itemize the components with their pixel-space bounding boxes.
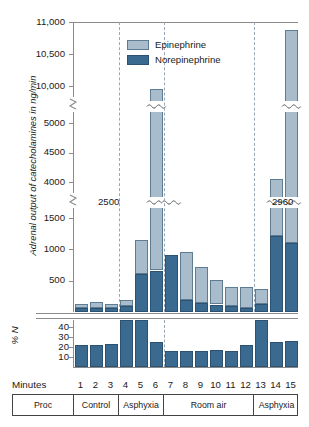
y-axis-tick-label: 5000	[3, 117, 65, 128]
percent-axis-tick-label: 20	[43, 341, 69, 352]
bar-epinephrine-minute-10	[210, 280, 224, 305]
bar-norepinephrine-minute-14	[270, 236, 284, 312]
bar-norepinephrine-minute-4	[120, 306, 134, 312]
percent-axis-tick	[69, 347, 73, 348]
percent-axis-tick	[69, 357, 73, 358]
bar-norepinephrine-minute-5	[135, 274, 149, 312]
y-axis-tick	[69, 54, 73, 55]
bar-epinephrine-minute-8	[180, 252, 194, 301]
bar-norepinephrine-minute-8	[180, 300, 194, 312]
minute-label-6: 6	[148, 379, 164, 390]
y-axis-tick-label: 11,000	[3, 16, 65, 27]
bar-epinephrine-minute-12	[240, 287, 254, 308]
y-axis-tick	[69, 123, 73, 124]
panel-separator-upper	[36, 313, 298, 314]
procedure-cell-proc-0: Proc	[13, 395, 74, 415]
bar-norepinephrine-minute-3	[105, 308, 119, 312]
procedure-table: ProcControlAsphyxiaRoom airAsphyxia	[12, 394, 298, 416]
percent-axis-tick-label: 40	[43, 321, 69, 332]
percent-bar-minute-3	[105, 344, 119, 367]
bar-epinephrine-minute-11	[225, 287, 239, 306]
y-axis-title: Adrenal output of catecholamines in ng/m…	[27, 16, 38, 316]
minute-label-1: 1	[73, 379, 89, 390]
bar-norepinephrine-minute-10	[210, 305, 224, 313]
percent-bar-minute-14	[270, 342, 284, 367]
bar-norepinephrine-minute-1	[75, 308, 89, 312]
bar-norepinephrine-minute-11	[225, 306, 239, 312]
bar-norepinephrine-minute-15	[285, 243, 299, 312]
legend-swatch-epinephrine	[127, 40, 149, 50]
percent-bar-minute-10	[210, 350, 224, 367]
minute-label-10: 10	[208, 379, 224, 390]
y-axis-tick-label: 1000	[3, 243, 65, 254]
y-axis-tick-label: 1500	[3, 212, 65, 223]
y-axis-tick-label: 10,500	[3, 48, 65, 59]
bar-norepinephrine-minute-12	[240, 308, 254, 312]
bar-norepinephrine-minute-13	[255, 304, 269, 312]
y-axis-tick	[69, 218, 73, 219]
phase-divider-after-minute-3	[119, 22, 120, 312]
bar-norepinephrine-minute-9	[195, 303, 209, 312]
percent-bar-minute-1	[75, 345, 89, 367]
bar-epinephrine-minute-13	[255, 289, 269, 304]
y-axis-tick	[69, 22, 73, 23]
percent-bar-minute-9	[195, 351, 209, 367]
y-axis-tick	[69, 281, 73, 282]
percent-bar-minute-11	[225, 351, 239, 368]
percent-axis-tick-label: 30	[43, 331, 69, 342]
minute-label-12: 12	[238, 379, 254, 390]
chart-legend: Epinephrine Norepinephrine	[127, 38, 221, 68]
y-axis-tick-label: 4500	[3, 146, 65, 157]
y-axis-tick	[69, 182, 73, 183]
minute-label-4: 4	[118, 379, 134, 390]
percent-bar-minute-15	[285, 341, 299, 367]
percent-bar-minute-6	[150, 342, 164, 367]
minute-label-2: 2	[88, 379, 104, 390]
percent-bar-minute-8	[180, 351, 194, 367]
minute-label-15: 15	[283, 379, 299, 390]
percent-axis-baseline	[73, 367, 298, 368]
percent-axis-tick	[69, 327, 73, 328]
percent-phase-divider-after-minute-6	[164, 320, 165, 367]
minute-label-9: 9	[193, 379, 209, 390]
legend-swatch-norepinephrine	[127, 55, 149, 65]
minute-label-8: 8	[178, 379, 194, 390]
bar-epinephrine-minute-15	[285, 30, 299, 244]
panel-separator-lower	[36, 318, 298, 319]
bar-epinephrine-minute-5	[135, 240, 149, 275]
y-axis-tick-label: 500	[3, 274, 65, 285]
y-axis-tick-label: 10,000	[3, 80, 65, 91]
percent-n-plot-area	[73, 320, 299, 367]
bar-break-upper-minute-15	[282, 101, 301, 112]
bar-norepinephrine-minute-7	[165, 255, 179, 312]
percent-bar-minute-13	[255, 320, 269, 367]
minute-label-7: 7	[163, 379, 179, 390]
bar-norepinephrine-minute-6	[150, 271, 164, 313]
percent-bar-minute-12	[240, 345, 254, 368]
legend-label-epinephrine: Epinephrine	[155, 39, 206, 50]
procedure-cell-room-air-3: Room air	[164, 395, 254, 415]
procedure-cell-asphyxia-4: Asphyxia	[254, 395, 299, 415]
phase-divider-after-minute-12	[254, 22, 255, 312]
y-axis-tick-label: 4000	[3, 176, 65, 187]
percent-axis-tick	[69, 337, 73, 338]
percent-bar-minute-5	[135, 320, 149, 367]
minute-label-14: 14	[268, 379, 284, 390]
legend-item-norepinephrine: Norepinephrine	[127, 53, 221, 66]
y-axis-break-marker	[67, 97, 80, 112]
legend-item-epinephrine: Epinephrine	[127, 38, 221, 51]
percent-bar-minute-4	[120, 320, 134, 367]
procedure-cell-control-1: Control	[74, 395, 119, 415]
y-axis-tick	[69, 153, 73, 154]
bar-epinephrine-minute-9	[195, 267, 209, 303]
minute-label-3: 3	[103, 379, 119, 390]
truncation-annotation-2960: 2960	[272, 196, 293, 207]
bar-norepinephrine-minute-2	[90, 308, 104, 312]
minute-label-13: 13	[253, 379, 269, 390]
minute-label-11: 11	[223, 379, 239, 390]
y-axis-break-marker	[67, 193, 80, 208]
truncation-annotation-2500: 2500	[98, 196, 119, 207]
y-axis-tick	[69, 86, 73, 87]
y-axis-tick	[69, 249, 73, 250]
chart-figure: Adrenal output of catecholamines in ng/m…	[0, 0, 309, 427]
